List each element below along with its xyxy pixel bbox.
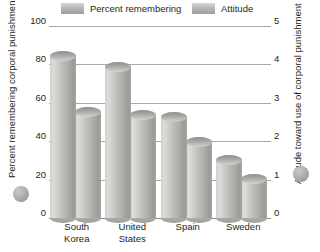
bar-body bbox=[105, 67, 131, 218]
bar-attitude-south-korea bbox=[75, 107, 101, 218]
bar-cap bbox=[50, 51, 76, 61]
bar-percent-remembering-united-states bbox=[105, 62, 131, 218]
left-axis-title: Percent remembering corporal punishment … bbox=[6, 28, 18, 178]
category-label-south-korea: South Korea bbox=[47, 221, 107, 244]
bar-attitude-spain bbox=[186, 137, 212, 218]
gridline bbox=[49, 103, 271, 104]
bar-percent-remembering-sweden bbox=[216, 155, 242, 218]
bar-percent-remembering-spain bbox=[161, 112, 187, 218]
left-tick-label: 40 bbox=[20, 131, 46, 141]
left-tick-label: 60 bbox=[20, 93, 46, 103]
bar-body bbox=[216, 160, 242, 218]
right-tick-label: 5 bbox=[274, 16, 294, 26]
category-label-sweden: Sweden bbox=[213, 221, 273, 233]
bar-body bbox=[130, 115, 156, 218]
bar-percent-remembering-south-korea bbox=[50, 51, 76, 218]
right-tick-label: 1 bbox=[274, 170, 294, 180]
bar-body bbox=[186, 142, 212, 218]
x-axis-category-labels: South KoreaUnited StatesSpainSweden bbox=[49, 221, 271, 251]
category-label-spain: Spain bbox=[158, 221, 218, 233]
legend-label-attitude: Attitude bbox=[221, 3, 253, 14]
category-label-united-states: United States bbox=[102, 221, 162, 244]
left-tick-label: 80 bbox=[20, 54, 46, 64]
bar-body bbox=[241, 179, 267, 218]
left-tick-label: 20 bbox=[20, 170, 46, 180]
right-tick-label: 0 bbox=[274, 208, 294, 218]
left-axis-marker-icon bbox=[13, 186, 29, 202]
gridline bbox=[49, 64, 271, 65]
bar-cap bbox=[241, 174, 267, 184]
bar-attitude-sweden bbox=[241, 174, 267, 218]
bar-body bbox=[161, 117, 187, 218]
right-tick-label: 3 bbox=[274, 93, 294, 103]
right-tick-label: 4 bbox=[274, 54, 294, 64]
right-tick-label: 2 bbox=[274, 131, 294, 141]
bar-body bbox=[50, 56, 76, 218]
bar-cap bbox=[75, 107, 101, 117]
bar-cap bbox=[216, 155, 242, 165]
attitude-swatch-icon bbox=[192, 3, 215, 14]
left-tick-label: 0 bbox=[20, 208, 46, 218]
plot-area bbox=[49, 26, 271, 218]
chart-legend: Percent remembering Attitude bbox=[0, 0, 320, 18]
legend-item-percent-remembering: Percent remembering bbox=[61, 1, 181, 16]
percent-swatch-icon bbox=[61, 3, 84, 14]
left-tick-label: 100 bbox=[20, 16, 46, 26]
right-axis-marker-icon bbox=[293, 166, 309, 182]
gridline bbox=[49, 26, 271, 27]
legend-label-percent-remembering: Percent remembering bbox=[90, 3, 181, 14]
bar-attitude-united-states bbox=[130, 110, 156, 218]
legend-item-attitude: Attitude bbox=[192, 1, 253, 16]
bar-body bbox=[75, 112, 101, 218]
